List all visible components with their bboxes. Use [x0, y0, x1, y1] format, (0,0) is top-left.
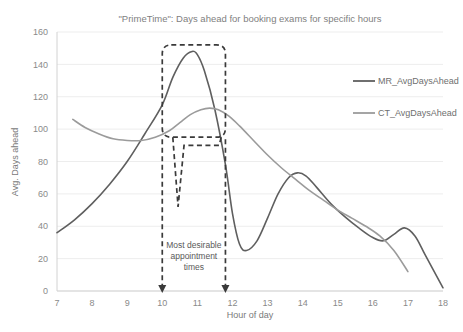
- y-axis-title: Avg. Days ahead: [10, 128, 20, 196]
- x-tick-label: 10: [157, 298, 167, 308]
- annotation-arrow-left-head: [158, 285, 166, 293]
- series-line-MR_AvgDaysAhead: [57, 51, 443, 288]
- x-tick-label: 11: [193, 298, 202, 308]
- line-chart: "PrimeTime": Days ahead for booking exam…: [0, 0, 463, 332]
- legend-label-MR_AvgDaysAhead[interactable]: MR_AvgDaysAhead: [378, 76, 459, 86]
- y-tick-label: 60: [38, 189, 48, 199]
- y-tick-label: 100: [33, 124, 48, 134]
- chart-title: "PrimeTime": Days ahead for booking exam…: [119, 13, 382, 24]
- highlight-callout-box: [162, 45, 225, 137]
- x-tick-label: 9: [125, 298, 130, 308]
- annotation-group: Most desirable appointment times: [158, 45, 229, 293]
- y-tick-label: 40: [38, 221, 48, 231]
- legend-label-CT_AvgDaysAhead[interactable]: CT_AvgDaysAhead: [378, 108, 457, 118]
- x-tick-label: 12: [227, 298, 237, 308]
- gridlines: [57, 32, 443, 291]
- x-tick-label: 15: [333, 298, 343, 308]
- chart-title-group: "PrimeTime": Days ahead for booking exam…: [119, 13, 382, 24]
- annotation-line-3: times: [184, 262, 204, 272]
- y-tick-label: 80: [38, 157, 48, 167]
- x-tick-label: 16: [368, 298, 378, 308]
- series-lines: [57, 51, 443, 288]
- x-axis-ticks: 789101112131415161718: [54, 298, 448, 308]
- x-tick-label: 14: [298, 298, 308, 308]
- y-axis-ticks: 020406080100120140160: [33, 27, 48, 296]
- x-tick-label: 17: [403, 298, 413, 308]
- y-tick-label: 140: [33, 60, 48, 70]
- annotation-line-2: appointment: [170, 251, 217, 261]
- y-tick-label: 0: [43, 286, 48, 296]
- x-axis-title: Hour of day: [227, 310, 274, 320]
- legend: MR_AvgDaysAheadCT_AvgDaysAhead: [353, 76, 459, 118]
- y-tick-label: 120: [33, 92, 48, 102]
- annotation-arrow-right-head: [221, 285, 229, 293]
- y-tick-label: 160: [33, 27, 48, 37]
- chart-container: "PrimeTime": Days ahead for booking exam…: [0, 0, 463, 332]
- x-tick-label: 13: [263, 298, 273, 308]
- annotation-line-1: Most desirable: [166, 240, 222, 250]
- x-tick-label: 18: [438, 298, 448, 308]
- y-tick-label: 20: [38, 254, 48, 264]
- x-tick-label: 8: [90, 298, 95, 308]
- callout-notch: [173, 137, 221, 207]
- x-tick-label: 7: [54, 298, 59, 308]
